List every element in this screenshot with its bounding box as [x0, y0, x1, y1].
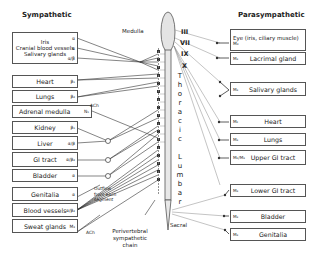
lumbar-letter: b [176, 180, 184, 188]
organ-label: Salivary glands [241, 86, 305, 93]
lumbar-letter: a [176, 189, 184, 197]
receptor-label: α/β₂ [66, 157, 75, 162]
para-organ-lungs: M₃ Lungs [230, 133, 306, 146]
thoracic-letter: r [176, 99, 184, 107]
sacral-label: Sacral [170, 222, 187, 228]
organ-label: Kidney [13, 124, 77, 131]
receptor-label: α [72, 36, 75, 41]
spinal-cord [161, 12, 175, 230]
para-organ-heart: M₂ Heart [230, 115, 306, 128]
receptor-label: M₃ [233, 214, 241, 219]
cranial-nerve-x: X [182, 62, 187, 70]
organ-label: Lungs [13, 93, 77, 100]
receptor-label: M₃ [233, 41, 239, 46]
sympathetic-head-box: Iris Cranial blood vessels Salivary glan… [12, 32, 78, 64]
organ-label: Lacrimal gland [241, 55, 305, 62]
lumbar-letter: r [176, 198, 184, 206]
thoracic-letter: c [176, 135, 184, 143]
thoracic-letter: c [176, 117, 184, 125]
ach-label: ACh [90, 103, 99, 108]
receptor-label: α [72, 46, 75, 51]
organ-label: Eye (iris, ciliary muscle) [233, 35, 299, 41]
organ-label: Sweat glands [13, 223, 77, 230]
symp-organ-gi-tract: GI tract α/β₂ [12, 152, 78, 167]
receptor-label: α/β [68, 141, 75, 146]
receptor-label: M₃ [233, 137, 241, 142]
symp-organ-adrenal-medulla: Adrenal medulla N₁ [12, 105, 92, 118]
outflow-label: Outflow from each segment [94, 186, 116, 203]
receptor-label: M₃ [233, 188, 241, 193]
para-organ-genitalia: M₃ Genitalia [230, 228, 306, 241]
cranial-nerve-iii: III [181, 28, 188, 36]
symp-organ-sweat-glands: Sweat glands M₃ [12, 219, 78, 233]
receptor-label: N₁ [84, 109, 89, 114]
symp-organ-lungs: Lungs β₂ [12, 90, 78, 103]
receptor-label: β₁ [70, 125, 75, 130]
sympathetic-header: Sympathetic [22, 11, 72, 19]
receptor-label: M₃ [233, 87, 241, 92]
thoracic-letter: o [176, 90, 184, 98]
receptor-label: β₁ [70, 79, 75, 84]
ach-label: ACh [86, 230, 95, 235]
lumbar-letter: L [176, 153, 184, 161]
receptor-label: α/β [68, 56, 75, 61]
outflow-line: segment [94, 197, 116, 203]
symp-organ-liver: Liver α/β [12, 136, 78, 150]
symp-organ-blood-vessels: Blood vessels α/β₂ [12, 203, 78, 217]
chain-line: Perivertebral [104, 228, 156, 235]
para-organ-bladder: M₃ Bladder [230, 210, 306, 223]
receptor-label: M₃ [69, 224, 75, 229]
organ-label: Bladder [13, 172, 77, 179]
receptor-label: α [72, 173, 75, 178]
receptor-label: α/β₂ [66, 208, 75, 213]
para-organ-salivary-glands: M₃ Salivary glands [230, 82, 306, 96]
organ-label: Adrenal medulla [13, 108, 91, 115]
lumbar-letter: m [176, 171, 184, 179]
medulla-label: Medulla [122, 28, 144, 34]
organ-label: Bladder [241, 213, 305, 220]
receptor-label: M₂ [233, 119, 241, 124]
symp-organ-kidney: Kidney β₁ [12, 121, 78, 134]
cranial-nerve-vii: VII [180, 39, 190, 47]
thoracic-letter: h [176, 81, 184, 89]
organ-label: Heart [241, 118, 305, 125]
thoracic-letter: T [176, 72, 184, 80]
receptor-label: M₃ [233, 232, 241, 237]
organ-label: Lungs [241, 136, 305, 143]
symp-organ-genitalia: Genitalia α [12, 187, 78, 201]
para-organ-lower-gi-tract: M₃ Lower GI tract [230, 184, 306, 197]
chain-line: sympathetic [104, 235, 156, 242]
parasympathetic-header: Parasympathetic [238, 11, 305, 19]
thoracic-letter: i [176, 126, 184, 134]
chain-label: Perivertebral sympathetic chain [104, 228, 156, 249]
receptor-label: α [72, 192, 75, 197]
organ-label: Genitalia [13, 191, 77, 198]
para-organ-lacrimal-gland: M₃ Lacrimal gland [230, 52, 306, 65]
organ-label: Heart [13, 78, 77, 85]
organ-label: Upper GI tract [241, 154, 305, 161]
receptor-label: β₂ [70, 94, 75, 99]
para-organ-upper-gi-tract: M₂/M₃ Upper GI tract [230, 150, 306, 165]
organ-label: Lower GI tract [241, 187, 305, 194]
thoracic-letter: a [176, 108, 184, 116]
receptor-label: M₂/M₃ [233, 155, 241, 160]
receptor-label: M₃ [233, 56, 241, 61]
symp-organ-heart: Heart β₁ [12, 75, 78, 88]
para-organ-eye: Eye (iris, ciliary muscle) M₃ [230, 29, 306, 51]
organ-salivary-glands: Salivary glands [24, 51, 66, 57]
chain-line: chain [104, 242, 156, 249]
symp-organ-bladder: Bladder α [12, 169, 78, 182]
cranial-nerve-ix: IX [181, 50, 188, 58]
organ-label: Genitalia [241, 231, 305, 238]
lumbar-letter: u [176, 162, 184, 170]
